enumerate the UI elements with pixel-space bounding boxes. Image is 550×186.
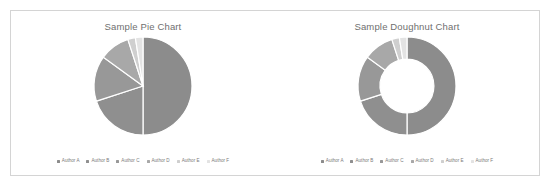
legend-swatch-icon [411, 160, 414, 163]
doughnut-chart-canvas [357, 36, 457, 136]
legend-swatch-icon [57, 160, 60, 163]
legend-item-label: Author A [326, 159, 344, 164]
legend-item[interactable]: Author C [380, 159, 403, 164]
legend-item-label: Author A [62, 159, 80, 164]
legend-item[interactable]: Author E [177, 159, 200, 164]
charts-panel: Sample Pie Chart Author AAuthor BAuthor … [10, 10, 540, 176]
chart-slice [143, 37, 192, 135]
legend-item-label: Author D [152, 159, 170, 164]
pie-slices [94, 37, 192, 135]
doughnut-chart-block: Sample Doughnut Chart Author AAuthor BAu… [275, 11, 539, 175]
doughnut-chart-svg [357, 36, 457, 136]
legend-item[interactable]: Author A [57, 159, 80, 164]
legend-item-label: Author E [182, 159, 200, 164]
chart-slice [360, 94, 407, 135]
legend-swatch-icon [116, 160, 119, 163]
legend-swatch-icon [147, 160, 150, 163]
legend-swatch-icon [471, 160, 474, 163]
legend-item[interactable]: Author B [86, 159, 109, 164]
legend-swatch-icon [321, 160, 324, 163]
pie-chart-legend: Author AAuthor BAuthor CAuthor DAuthor E… [11, 159, 275, 164]
legend-swatch-icon [350, 160, 353, 163]
legend-item[interactable]: Author C [116, 159, 139, 164]
legend-item[interactable]: Author D [411, 159, 434, 164]
doughnut-chart-title: Sample Doughnut Chart [354, 21, 459, 32]
pie-chart-title: Sample Pie Chart [105, 21, 182, 32]
legend-item-label: Author C [121, 159, 139, 164]
legend-item-label: Author F [212, 159, 230, 164]
legend-item[interactable]: Author B [350, 159, 373, 164]
legend-item[interactable]: Author F [471, 159, 494, 164]
legend-swatch-icon [86, 160, 89, 163]
legend-item-label: Author E [446, 159, 464, 164]
legend-item-label: Author B [355, 159, 373, 164]
doughnut-slices [358, 37, 456, 135]
legend-item[interactable]: Author D [147, 159, 170, 164]
legend-swatch-icon [380, 160, 383, 163]
screenshot-root: Sample Pie Chart Author AAuthor BAuthor … [0, 0, 550, 186]
legend-swatch-icon [207, 160, 210, 163]
doughnut-chart-legend: Author AAuthor BAuthor CAuthor DAuthor E… [275, 159, 539, 164]
legend-swatch-icon [441, 160, 444, 163]
legend-item-label: Author C [385, 159, 403, 164]
legend-item-label: Author D [416, 159, 434, 164]
legend-item-label: Author B [91, 159, 109, 164]
legend-item[interactable]: Author E [441, 159, 464, 164]
legend-item[interactable]: Author A [321, 159, 344, 164]
legend-item[interactable]: Author F [207, 159, 230, 164]
legend-item-label: Author F [476, 159, 494, 164]
chart-slice [407, 37, 456, 135]
legend-swatch-icon [177, 160, 180, 163]
pie-chart-canvas [93, 36, 193, 136]
pie-chart-svg [93, 36, 193, 136]
pie-chart-block: Sample Pie Chart Author AAuthor BAuthor … [11, 11, 275, 175]
